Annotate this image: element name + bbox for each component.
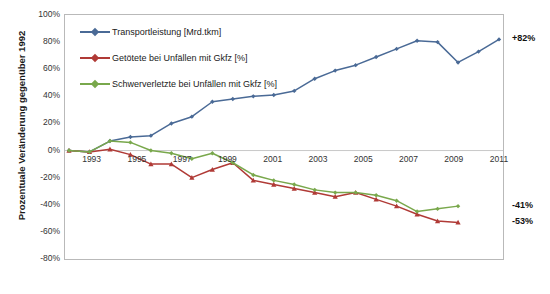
x-tick-label: 2011 — [479, 155, 519, 164]
x-tick-label: 1993 — [72, 155, 112, 164]
legend-swatch-icon — [80, 53, 110, 63]
x-tick-label: 1995 — [117, 155, 157, 164]
y-tick-label: 80% — [24, 37, 60, 46]
x-tick-label: 2005 — [343, 155, 383, 164]
legend-label: Transportleistung [Mrd.tkm] — [112, 27, 221, 37]
end-value-label: -41% — [512, 201, 533, 210]
y-axis-tick-labels: 100%80%60%40%20%0%-20%-40%-60%-80% — [18, 0, 60, 294]
x-tick-label: 1997 — [162, 155, 202, 164]
y-tick-label: -20% — [24, 173, 60, 182]
legend-item[interactable]: Schwerverletzte bei Unfällen mit Gkfz [%… — [80, 74, 277, 94]
y-tick-label: 60% — [24, 64, 60, 73]
y-tick-label: 20% — [24, 118, 60, 127]
legend-label: Schwerverletzte bei Unfällen mit Gkfz [%… — [112, 79, 277, 89]
legend-swatch-icon — [80, 79, 110, 89]
legend-swatch-icon — [80, 27, 110, 37]
y-tick-label: -40% — [24, 200, 60, 209]
y-tick-label: -60% — [24, 227, 60, 236]
y-tick-label: 40% — [24, 91, 60, 100]
x-tick-label: 2009 — [434, 155, 474, 164]
y-tick-label: -80% — [24, 254, 60, 263]
legend-item[interactable]: Getötete bei Unfällen mit Gkfz [%] — [80, 48, 277, 68]
legend-label: Getötete bei Unfällen mit Gkfz [%] — [112, 53, 248, 63]
y-tick-label: 100% — [24, 10, 60, 19]
x-tick-label: 2003 — [298, 155, 338, 164]
x-tick-label: 2001 — [253, 155, 293, 164]
chart-legend: Transportleistung [Mrd.tkm]Getötete bei … — [80, 22, 277, 100]
end-value-label: +82% — [512, 34, 535, 43]
legend-item[interactable]: Transportleistung [Mrd.tkm] — [80, 22, 277, 42]
chart-container: Prozentuale Veränderung gegenüber 1992 1… — [0, 0, 550, 294]
y-tick-label: 0% — [24, 146, 60, 155]
end-value-label: -53% — [512, 217, 533, 226]
x-tick-label: 1999 — [207, 155, 247, 164]
x-tick-label: 2007 — [388, 155, 428, 164]
